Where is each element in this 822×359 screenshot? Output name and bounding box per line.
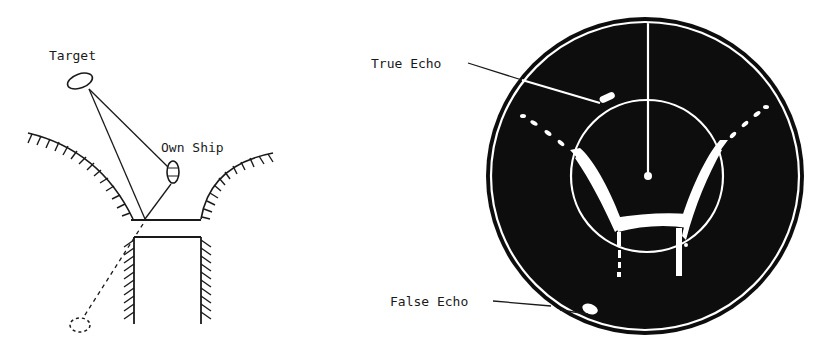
reflector-to-ship-path [145, 184, 171, 219]
radar-false-echo-diagram: Target Own Ship [0, 0, 822, 359]
right-coastline [201, 153, 273, 219]
left-coastline [28, 133, 133, 219]
direct-path [89, 89, 168, 167]
virtual-target-icon [70, 318, 90, 332]
own-ship-label: Own Ship [161, 140, 224, 155]
false-echo-leader-outer [493, 301, 551, 306]
radar-scope-panel: True Echo False Echo [371, 0, 804, 335]
true-echo-label: True Echo [371, 56, 441, 71]
own-ship-icon [167, 161, 179, 183]
target-icon [65, 70, 94, 92]
harbor-geometry-panel: Target Own Ship [28, 48, 273, 332]
false-echo-label: False Echo [390, 294, 468, 309]
own-ship-center-dot [644, 172, 652, 180]
signal-paths [89, 89, 171, 219]
true-echo-leader-outer [468, 63, 522, 80]
target-to-reflector-path [89, 89, 145, 219]
lower-channel-walls [124, 237, 211, 324]
target-label: Target [49, 48, 96, 63]
